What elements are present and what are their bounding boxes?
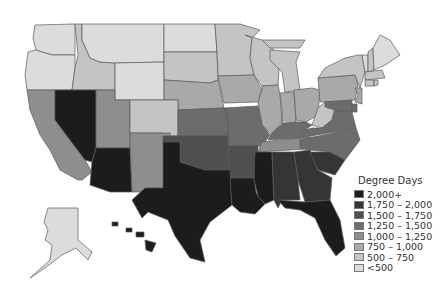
- legend-item: 1,250 – 1,500: [354, 221, 440, 232]
- legend: Degree Days 2,000+1,750 – 2,0001,500 – 1…: [354, 175, 440, 273]
- state-de: [352, 104, 357, 112]
- legend-label: 1,000 – 1,250: [367, 231, 432, 242]
- legend-label: 1,750 – 2,000: [367, 199, 432, 210]
- legend-label: 1,250 – 1,500: [367, 220, 432, 231]
- legend-label: 750 – 1,000: [367, 241, 423, 252]
- state-pa: [318, 75, 358, 102]
- legend-swatch: [354, 222, 364, 230]
- legend-item: 750 – 1,000: [354, 242, 440, 253]
- legend-swatch: [354, 232, 364, 240]
- legend-item: <500: [354, 263, 440, 274]
- state-ri: [374, 80, 378, 86]
- legend-swatch: [354, 190, 364, 198]
- legend-item: 1,750 – 2,000: [354, 200, 440, 211]
- legend-label: 500 – 750: [367, 252, 414, 263]
- state-me: [373, 35, 400, 70]
- state-wy: [115, 62, 164, 100]
- state-wa: [33, 24, 75, 55]
- legend-label: 1,500 – 1,750: [367, 210, 432, 221]
- state-nd: [164, 24, 217, 52]
- state-mt: [82, 24, 164, 63]
- state-co: [130, 100, 178, 136]
- state-hi: [112, 222, 156, 252]
- state-ma: [365, 70, 385, 80]
- state-ct: [365, 80, 374, 86]
- legend-item: 1,500 – 1,750: [354, 210, 440, 221]
- state-ia: [218, 75, 262, 103]
- legend-swatch: [354, 211, 364, 219]
- legend-swatch: [354, 243, 364, 251]
- legend-item: 2,000+: [354, 189, 440, 200]
- legend-label: <500: [367, 262, 393, 273]
- state-or: [25, 50, 75, 90]
- state-ar: [228, 146, 258, 178]
- state-az: [90, 148, 132, 192]
- state-ks: [178, 108, 228, 136]
- legend-title: Degree Days: [358, 175, 440, 186]
- state-ak: [30, 208, 92, 278]
- legend-item: 1,000 – 1,250: [354, 231, 440, 242]
- legend-swatch: [354, 264, 364, 272]
- state-sd: [164, 52, 218, 83]
- legend-swatch: [354, 201, 364, 209]
- legend-swatch: [354, 253, 364, 261]
- legend-item: 500 – 750: [354, 252, 440, 263]
- state-fl: [278, 200, 345, 256]
- legend-label: 2,000+: [367, 189, 402, 200]
- state-in: [280, 92, 296, 124]
